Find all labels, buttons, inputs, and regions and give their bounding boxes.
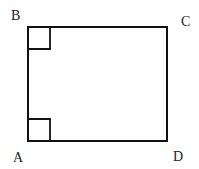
vertex-label-a: A	[13, 150, 24, 165]
vertex-label-d: D	[173, 149, 183, 164]
right-angle-marker-b	[28, 27, 50, 49]
right-angle-marker-a	[28, 119, 50, 141]
vertex-label-b: B	[11, 8, 20, 23]
rectangle-diagram: B C A D	[0, 0, 199, 169]
vertex-label-c: C	[181, 14, 190, 29]
rectangle-abcd	[28, 27, 167, 141]
